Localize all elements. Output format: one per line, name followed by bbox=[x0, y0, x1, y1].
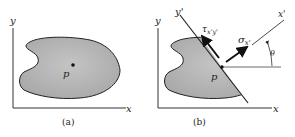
point-p-label: p bbox=[211, 71, 218, 82]
normal-stress-arrow bbox=[226, 47, 247, 62]
x-prime-label: x' bbox=[278, 9, 286, 19]
panel-a: y x p (a) bbox=[9, 15, 132, 127]
y-axis-label: y bbox=[9, 15, 16, 26]
x-prime-axis bbox=[252, 20, 284, 45]
x-axis-label: x bbox=[126, 103, 132, 114]
y-axis-label: y bbox=[154, 15, 161, 26]
y-prime-label: y' bbox=[174, 6, 183, 17]
point-p-marker bbox=[220, 65, 224, 69]
panel-b: y x y' x' θ σx' τx'y' p (b) bbox=[154, 6, 286, 127]
point-p-label: p bbox=[63, 68, 70, 79]
caption-a: (a) bbox=[62, 117, 74, 127]
normal-stress-label: σx' bbox=[238, 34, 251, 47]
point-p-marker bbox=[71, 63, 75, 67]
x-axis-label: x bbox=[273, 103, 279, 114]
shear-stress-label: τx'y' bbox=[202, 24, 218, 36]
body-shape bbox=[20, 37, 121, 98]
theta-label: θ bbox=[270, 49, 275, 58]
stress-transformation-diagram: y x p (a) y x y' x' θ σx' τx'y' p (b) bbox=[0, 0, 295, 137]
caption-b: (b) bbox=[193, 117, 206, 127]
